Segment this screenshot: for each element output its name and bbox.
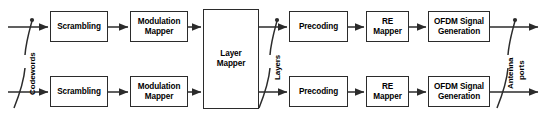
codewords-brace-upper xyxy=(25,21,32,55)
block-scrambling-bottom[interactable]: Scrambling xyxy=(50,76,108,107)
antenna-ports-brace-dot xyxy=(513,18,517,22)
block-label: Layer Mapper xyxy=(215,49,248,69)
block-label: Modulation Mapper xyxy=(136,82,183,102)
block-label: RE Mapper xyxy=(371,17,404,37)
block-modulation-mapper-bottom[interactable]: Modulation Mapper xyxy=(130,76,188,107)
block-ofdm-signal-generation-bottom[interactable]: OFDM Signal Generation xyxy=(428,76,490,107)
codewords-brace-dot xyxy=(30,18,34,22)
label-ports: ports xyxy=(517,60,526,80)
antenna-ports-brace-upper xyxy=(508,21,515,55)
block-scrambling-top[interactable]: Scrambling xyxy=(50,11,108,42)
block-modulation-mapper-top[interactable]: Modulation Mapper xyxy=(130,11,188,42)
block-precoding-bottom[interactable]: Precoding xyxy=(289,76,348,107)
block-label: Precoding xyxy=(297,87,340,97)
block-layer-mapper[interactable]: Layer Mapper xyxy=(203,9,259,109)
label-codewords: Codewords xyxy=(28,52,37,95)
layers-brace-upper xyxy=(270,21,277,55)
block-precoding-top[interactable]: Precoding xyxy=(289,11,348,42)
block-label: Scrambling xyxy=(55,22,103,32)
block-ofdm-signal-generation-top[interactable]: OFDM Signal Generation xyxy=(428,11,490,42)
block-label: RE Mapper xyxy=(371,82,404,102)
layers-brace-lower xyxy=(259,68,270,108)
layers-brace-dot xyxy=(275,18,279,22)
codewords-brace-lower xyxy=(14,68,25,108)
block-re-mapper-bottom[interactable]: RE Mapper xyxy=(366,76,409,107)
block-diagram: Scrambling Modulation Mapper Layer Mappe… xyxy=(0,0,546,121)
block-label: Scrambling xyxy=(55,87,103,97)
block-label: Precoding xyxy=(297,22,340,32)
label-antenna: Antenna xyxy=(506,58,515,89)
label-layers: Layers xyxy=(273,55,282,80)
block-label: Modulation Mapper xyxy=(136,17,183,37)
block-label: OFDM Signal Generation xyxy=(432,17,486,37)
block-label: OFDM Signal Generation xyxy=(432,82,486,102)
block-re-mapper-top[interactable]: RE Mapper xyxy=(366,11,409,42)
